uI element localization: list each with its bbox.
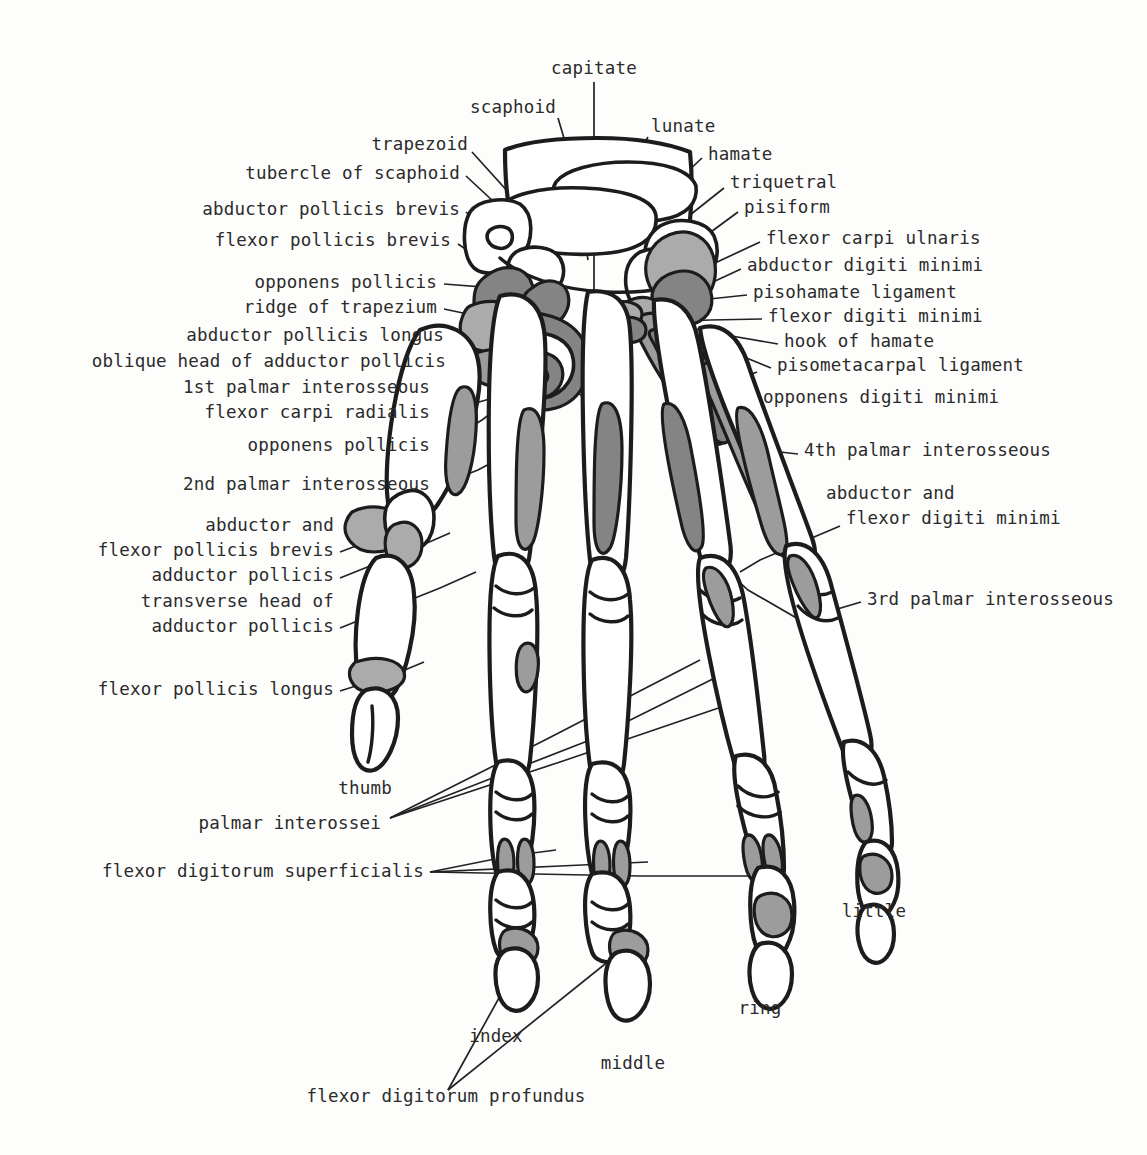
label-ridge-of-trapezium: ridge of trapezium bbox=[244, 299, 437, 317]
label-abductor-digiti-minimi: abductor digiti minimi bbox=[747, 257, 983, 275]
middle-finger bbox=[583, 558, 650, 1021]
label-opponens-digiti-minimi: opponens digiti minimi bbox=[763, 389, 999, 407]
metacarpals bbox=[387, 291, 815, 587]
label-ring: ring bbox=[739, 1000, 782, 1018]
label-4th-palmar-interosseous: 4th palmar interosseous bbox=[804, 442, 1051, 460]
label-flexor-carpi-radialis: flexor carpi radialis bbox=[205, 404, 430, 422]
label-pisiform: pisiform bbox=[744, 199, 830, 217]
label-flexor-digiti-minimi-2: flexor digiti minimi bbox=[846, 510, 1061, 528]
label-adductor-pollicis-1: adductor pollicis bbox=[151, 567, 334, 585]
label-abductor-pollicis-brevis: abductor pollicis brevis bbox=[202, 201, 460, 219]
label-flexor-pollicis-longus: flexor pollicis longus bbox=[98, 681, 334, 699]
label-flexor-digiti-minimi: flexor digiti minimi bbox=[768, 308, 983, 326]
label-oblique-head-of-adductor-pollicis: oblique head of adductor pollicis bbox=[92, 353, 446, 371]
ring-finger bbox=[698, 556, 794, 1009]
label-trapezoid: trapezoid bbox=[371, 136, 468, 154]
label-thumb: thumb bbox=[338, 780, 392, 798]
label-abductor-and: abductor and bbox=[205, 517, 334, 535]
label-adductor-pollicis-2: adductor pollicis bbox=[151, 618, 334, 636]
label-hamate: hamate bbox=[708, 146, 772, 164]
label-flexor-pollicis-brevis-2: flexor pollicis brevis bbox=[98, 542, 334, 560]
label-transverse-head-of: transverse head of bbox=[141, 593, 334, 611]
index-finger bbox=[489, 554, 538, 1011]
label-palmar-interossei: palmar interossei bbox=[198, 815, 381, 833]
label-2nd-palmar-interosseous: 2nd palmar interosseous bbox=[183, 476, 430, 494]
anatomy-figure-page: .bone{fill:#ffffff;stroke:#1c1c1c;stroke… bbox=[0, 0, 1147, 1155]
label-tubercle-of-scaphoid: tubercle of scaphoid bbox=[245, 165, 460, 183]
label-opponens-pollicis-2: opponens pollicis bbox=[247, 437, 430, 455]
label-hook-of-hamate: hook of hamate bbox=[784, 333, 934, 351]
label-1st-palmar-interosseous: 1st palmar interosseous bbox=[183, 379, 430, 397]
label-flexor-pollicis-brevis: flexor pollicis brevis bbox=[215, 232, 451, 250]
label-flexor-digitorum-superficialis: flexor digitorum superficialis bbox=[102, 863, 424, 881]
label-abductor-pollicis-longus: abductor pollicis longus bbox=[186, 327, 444, 345]
label-opponens-pollicis-1: opponens pollicis bbox=[254, 274, 437, 292]
label-pisohamate-ligament: pisohamate ligament bbox=[753, 284, 957, 302]
label-scaphoid: scaphoid bbox=[470, 99, 556, 117]
label-flexor-digitorum-profundus: flexor digitorum profundus bbox=[306, 1088, 585, 1106]
label-index: index bbox=[469, 1028, 523, 1046]
label-triquetral: triquetral bbox=[730, 174, 837, 192]
label-capitate: capitate bbox=[551, 60, 637, 78]
label-middle: middle bbox=[601, 1055, 665, 1073]
label-pisometacarpal-ligament: pisometacarpal ligament bbox=[777, 357, 1024, 375]
label-lunate: lunate bbox=[651, 118, 715, 136]
label-flexor-carpi-ulnaris: flexor carpi ulnaris bbox=[766, 230, 981, 248]
thumb-phalanges bbox=[345, 490, 434, 770]
2nd-palmar-interosseous-shape bbox=[516, 409, 544, 550]
label-abductor-and-2: abductor and bbox=[826, 485, 955, 503]
label-3rd-palmar-interosseous: 3rd palmar interosseous bbox=[867, 591, 1114, 609]
label-little: little bbox=[842, 903, 906, 921]
